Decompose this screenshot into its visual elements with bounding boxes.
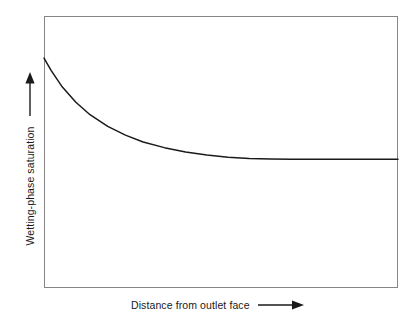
chart-figure: Wetting-phase saturation Distance from o… xyxy=(0,0,416,318)
x-axis: Distance from outlet face xyxy=(44,296,398,314)
arrow-right-icon xyxy=(258,299,304,311)
y-axis: Wetting-phase saturation xyxy=(14,16,46,288)
x-axis-label: Distance from outlet face xyxy=(131,299,250,311)
y-axis-label: Wetting-phase saturation xyxy=(24,84,36,288)
chart-plot-area xyxy=(44,16,398,288)
data-series-line xyxy=(44,58,398,159)
